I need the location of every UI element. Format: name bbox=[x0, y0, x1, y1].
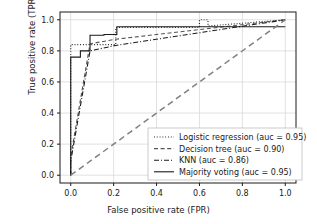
y-tick-label: 0.8 bbox=[41, 47, 54, 56]
y-tick-label: 1.0 bbox=[41, 16, 54, 25]
plot-canvas: 0.00.20.40.60.81.00.00.20.40.60.81.0Logi… bbox=[0, 0, 317, 224]
x-tick-label: 0.6 bbox=[193, 189, 206, 198]
legend-label: Majority voting (auc = 0.95) bbox=[179, 168, 292, 177]
x-tick-label: 1.0 bbox=[279, 189, 292, 198]
legend-label: Decision tree (auc = 0.90) bbox=[179, 145, 284, 154]
x-tick-label: 0.0 bbox=[64, 189, 77, 198]
y-tick-label: 0.2 bbox=[41, 140, 54, 149]
y-axis-label: True positive rate (TPR) bbox=[27, 0, 37, 105]
legend-label: Logistic regression (auc = 0.95) bbox=[179, 133, 306, 142]
x-tick-label: 0.4 bbox=[150, 189, 163, 198]
y-tick-label: 0.6 bbox=[41, 78, 54, 87]
y-tick-label: 0.0 bbox=[41, 171, 54, 180]
x-tick-label: 0.2 bbox=[107, 189, 120, 198]
x-tick-label: 0.8 bbox=[236, 189, 249, 198]
x-axis-label: False positive rate (FPR) bbox=[0, 205, 317, 215]
y-tick-label: 0.4 bbox=[41, 109, 54, 118]
legend-label: KNN (auc = 0.86) bbox=[179, 156, 249, 165]
roc-curve-figure: True positive rate (TPR) False positive … bbox=[0, 0, 317, 224]
legend: Logistic regression (auc = 0.95)Decision… bbox=[148, 128, 306, 180]
